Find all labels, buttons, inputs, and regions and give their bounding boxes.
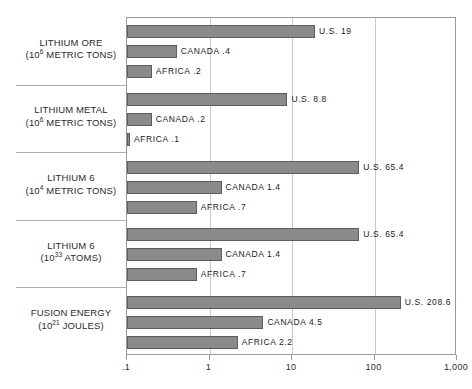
bar-value-label: CANADA 1.4 [226, 181, 281, 194]
bar-value-label: CANADA .2 [156, 113, 206, 126]
axis-tick [209, 355, 210, 360]
bar-value-label: U.S. 8.8 [291, 93, 327, 106]
bar-value-label: U.S. 19 [319, 25, 352, 38]
bar-value-label: AFRICA .2 [156, 65, 202, 78]
bar-chart: U.S. 19CANADA .4AFRICA .2U.S. 8.8CANADA … [0, 0, 472, 389]
bar [127, 316, 263, 329]
bar-value-label: AFRICA .7 [201, 201, 247, 214]
bar-row: CANADA 1.4 [127, 248, 455, 261]
axis-tick [291, 355, 292, 360]
bar [127, 336, 238, 349]
bar-value-label: CANADA 4.5 [267, 316, 322, 329]
bar [127, 228, 359, 241]
bar [127, 296, 401, 309]
bar-value-label: U.S. 208.6 [405, 296, 451, 309]
bar-value-label: AFRICA .1 [134, 133, 180, 146]
axis-tick [126, 355, 127, 360]
bar-value-label: U.S. 65.4 [363, 161, 404, 174]
bar-value-label: CANADA 1.4 [226, 248, 281, 261]
plot-area: U.S. 19CANADA .4AFRICA .2U.S. 8.8CANADA … [126, 17, 456, 355]
bar-row: AFRICA .7 [127, 268, 455, 281]
category-label: LITHIUM ORE(106 METRIC TONS) [16, 37, 126, 62]
axis-tick [456, 355, 457, 360]
axis-tick [374, 355, 375, 360]
bar [127, 113, 152, 126]
bar-value-label: U.S. 65.4 [363, 228, 404, 241]
bar [127, 268, 197, 281]
bar-row: AFRICA .2 [127, 65, 455, 78]
bar-row: CANADA 4.5 [127, 316, 455, 329]
row-separator [16, 85, 126, 86]
bar-row: AFRICA 2.2 [127, 336, 455, 349]
bar-row: U.S. 19 [127, 25, 455, 38]
category-label: LITHIUM METAL(106 METRIC TONS) [16, 104, 126, 129]
category-label: LITHIUM 6(104 METRIC TONS) [16, 172, 126, 197]
bar [127, 248, 222, 261]
bar-row: U.S. 65.4 [127, 161, 455, 174]
bar-row: CANADA 1.4 [127, 181, 455, 194]
bar-row: U.S. 8.8 [127, 93, 455, 106]
bar-row: CANADA .2 [127, 113, 455, 126]
axis-tick-label: 1,000 [444, 362, 468, 372]
bar-value-label: CANADA .4 [181, 45, 231, 58]
bar [127, 181, 222, 194]
category-label: LITHIUM 6(1033 ATOMS) [16, 240, 126, 265]
bar [127, 133, 130, 146]
bar [127, 65, 152, 78]
axis-tick-label: 1 [206, 362, 211, 372]
category-label: FUSION ENERGY(1021 JOULES) [16, 307, 126, 332]
bar-row: AFRICA .7 [127, 201, 455, 214]
bar-value-label: AFRICA 2.2 [242, 336, 293, 349]
axis-tick-label: 100 [366, 362, 382, 372]
bar [127, 201, 197, 214]
bar [127, 25, 315, 38]
bar-row: AFRICA .1 [127, 133, 455, 146]
bar [127, 45, 177, 58]
bar-row: U.S. 208.6 [127, 296, 455, 309]
axis-tick-label: 10 [286, 362, 297, 372]
row-separator [16, 220, 126, 221]
category-label-column: LITHIUM ORE(106 METRIC TONS)LITHIUM META… [16, 17, 126, 355]
bar [127, 93, 287, 106]
bar [127, 161, 359, 174]
bar-value-label: AFRICA .7 [201, 268, 247, 281]
row-separator [16, 287, 126, 288]
bar-row: CANADA .4 [127, 45, 455, 58]
row-separator [16, 152, 126, 153]
axis-tick-label: .1 [122, 362, 130, 372]
bar-row: U.S. 65.4 [127, 228, 455, 241]
